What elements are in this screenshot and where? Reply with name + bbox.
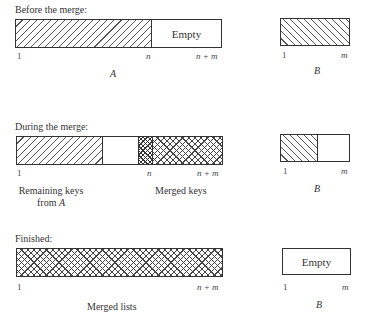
empty-label: Empty [152, 28, 221, 40]
keys-of-a-segment [16, 20, 152, 47]
merged-lists-annotation: Merged lists [87, 301, 137, 312]
tick-n-plus-m: n + m [197, 282, 219, 292]
merged-keys-segment [153, 137, 222, 164]
tick-1: 1 [283, 282, 288, 292]
tick-n-plus-m: n + m [197, 168, 219, 178]
tick-n-plus-m: n + m [196, 51, 218, 61]
merged-keys-annotation: Merged keys [155, 185, 207, 196]
remaining-keys-b-segment [281, 135, 318, 161]
from-text: from [37, 197, 59, 208]
tick-n: n [146, 51, 151, 61]
array-b-name: B [314, 65, 320, 76]
array-a-var: A [59, 197, 65, 208]
remaining-keys-line1: Remaining keys [15, 185, 87, 197]
array-b-name: B [316, 299, 322, 310]
tick-1: 1 [17, 51, 22, 61]
tick-1: 1 [282, 50, 287, 60]
tick-1: 1 [17, 282, 22, 292]
array-b-before [280, 18, 350, 46]
merged-lists-segment [17, 249, 222, 276]
keys-of-b-segment [281, 19, 349, 45]
array-b-name: B [314, 183, 320, 194]
array-a-name: A [110, 68, 116, 79]
array-a-before: Empty [15, 19, 222, 48]
empty-label: Empty [283, 256, 350, 268]
array-b-during [280, 134, 350, 162]
gap-segment [103, 137, 138, 164]
stage-finished-caption: Finished: [15, 233, 52, 244]
empty-segment: Empty [152, 20, 221, 47]
tick-1: 1 [283, 166, 288, 176]
empty-b-segment [318, 135, 349, 161]
tick-m: m [341, 50, 348, 60]
stage-during-caption: During the merge: [15, 121, 88, 132]
tick-m: m [341, 166, 348, 176]
remaining-keys-line2: from A [15, 197, 87, 209]
remaining-keys-a-segment [17, 137, 103, 164]
tick-m: m [342, 282, 349, 292]
tick-1: 1 [17, 168, 22, 178]
array-a-finished [16, 248, 223, 277]
tick-n: n [147, 168, 152, 178]
remaining-keys-annotation: Remaining keys from A [15, 185, 87, 209]
array-a-during [16, 136, 223, 165]
stage-before-caption: Before the merge: [15, 4, 87, 15]
array-b-finished: Empty [282, 248, 351, 275]
merged-keys-dense-segment [138, 137, 153, 164]
